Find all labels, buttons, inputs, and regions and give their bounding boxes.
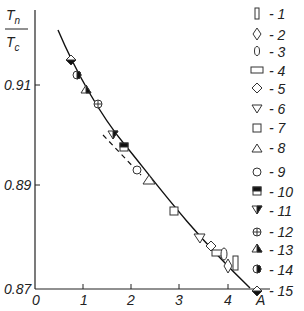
point-13 <box>81 85 91 93</box>
point-14 <box>73 71 81 79</box>
svg-text:- 1: - 1 <box>269 6 285 22</box>
x-tick-3: 3 <box>175 292 183 308</box>
y-label-numerator: Tn <box>6 7 21 26</box>
legend-marker-14 <box>253 265 261 273</box>
point-12 <box>94 100 102 108</box>
chart: Tn Tc 0.91 0.89 0.87 0 1 2 3 4 A <box>0 0 304 311</box>
svg-text:- 6: - 6 <box>269 101 286 117</box>
point-6 <box>194 234 205 243</box>
legend-marker-5 <box>252 83 262 93</box>
svg-text:- 5: - 5 <box>269 81 286 97</box>
point-3 <box>221 248 227 260</box>
svg-text:- 15: - 15 <box>269 283 293 299</box>
svg-text:- 9: - 9 <box>269 164 286 180</box>
point-1 <box>233 256 238 270</box>
point-9 <box>133 166 141 174</box>
svg-text:- 7: - 7 <box>269 120 287 136</box>
svg-text:- 10: - 10 <box>269 184 293 200</box>
svg-text:- 8: - 8 <box>269 140 286 156</box>
legend-marker-1 <box>255 8 259 19</box>
y-axis-label: Tn Tc <box>5 7 28 53</box>
legend-marker-11 <box>252 206 262 214</box>
legend-marker-2 <box>253 28 261 40</box>
fit-curve <box>58 30 250 288</box>
svg-text:- 4: - 4 <box>269 63 286 79</box>
x-tick-4: 4 <box>224 292 232 308</box>
point-15 <box>66 55 76 65</box>
legend-marker-12 <box>253 228 261 236</box>
legend <box>251 8 263 296</box>
legend-marker-9 <box>253 168 261 176</box>
svg-text:- 3: - 3 <box>269 44 286 60</box>
legend-marker-10 <box>253 187 261 195</box>
x-tick-2: 2 <box>126 292 135 308</box>
legend-marker-13 <box>252 244 262 252</box>
data-points <box>66 55 238 273</box>
legend-labels: - 1 - 2 - 3 - 4 - 5 - 6 - 7 - 8 - 9 - 10… <box>269 6 293 299</box>
svg-text:- 2: - 2 <box>269 27 286 43</box>
point-7 <box>170 207 178 215</box>
point-10 <box>120 143 128 151</box>
y-label-denominator: Tc <box>6 34 20 53</box>
legend-marker-3 <box>255 47 260 56</box>
svg-text:- 12: - 12 <box>269 224 293 240</box>
y-tick-0.87: 0.87 <box>4 281 32 297</box>
y-tick-0.89: 0.89 <box>4 177 31 193</box>
x-ticks: 0 1 2 3 4 A <box>32 284 265 308</box>
point-2 <box>224 259 232 273</box>
x-tick-1: 1 <box>80 292 88 308</box>
svg-text:- 13: - 13 <box>269 242 293 258</box>
legend-marker-7 <box>253 124 261 132</box>
svg-text:- 14: - 14 <box>269 262 293 278</box>
legend-marker-8 <box>252 144 262 152</box>
legend-marker-4 <box>251 67 263 73</box>
x-tick-0: 0 <box>32 292 40 308</box>
svg-text:- 11: - 11 <box>269 203 292 219</box>
y-tick-0.91: 0.91 <box>4 77 31 93</box>
legend-marker-6 <box>252 105 262 113</box>
